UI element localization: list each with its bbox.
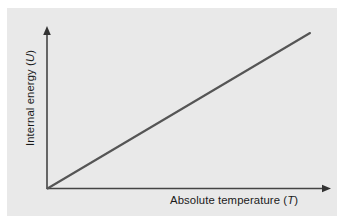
y-axis-arrowhead-icon: [43, 26, 51, 35]
x-axis-arrowhead-icon: [322, 185, 331, 193]
figure-container: Absolute temperature (T) Internal energy…: [0, 0, 345, 223]
data-line-series-1: [48, 33, 311, 189]
x-axis-label: Absolute temperature (T): [170, 194, 298, 206]
x-axis-label-close: ): [294, 194, 298, 206]
x-axis-label-text: Absolute temperature (: [170, 194, 287, 206]
plot-area: [0, 0, 345, 223]
